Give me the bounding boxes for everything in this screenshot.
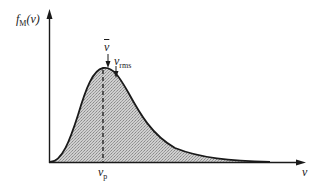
y-axis-arrow-icon xyxy=(47,9,53,19)
mean-speed-label: v xyxy=(104,41,109,53)
rms-speed-label: vrms xyxy=(114,55,131,70)
vrms-subscript: rms xyxy=(119,61,131,70)
plot-canvas xyxy=(0,0,324,183)
maxwell-distribution-figure: fM(v) v vp v vrms xyxy=(0,0,324,183)
y-axis-label-argument: (v) xyxy=(26,12,39,26)
x-axis-label: v xyxy=(302,166,307,178)
vp-subscript: p xyxy=(103,172,107,181)
distribution-area xyxy=(50,68,270,162)
y-axis-label: fM(v) xyxy=(16,13,40,28)
most-probable-speed-label: vp xyxy=(98,166,107,181)
